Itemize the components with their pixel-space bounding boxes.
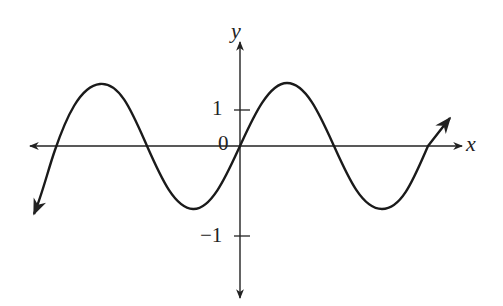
sine-graph: y x 1 0 −1 [0,0,503,306]
tick-label-zero: 0 [218,133,229,154]
tick-label-one: 1 [212,98,223,119]
graph-canvas [0,0,503,306]
sine-curve [34,83,450,214]
tick-label-neg-one: −1 [200,225,222,246]
x-axis-label: x [466,133,476,155]
y-axis-label: y [231,20,241,42]
